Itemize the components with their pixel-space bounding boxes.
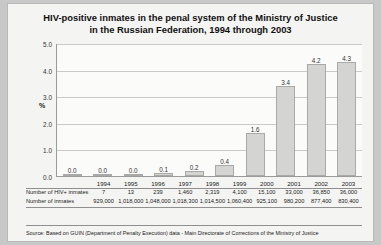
x-axis-tick-label: 1994: [90, 180, 117, 187]
x-axis-tick-label: 2001: [280, 180, 307, 187]
table-cell: 15,100: [253, 189, 280, 195]
bar[interactable]: 0.2: [185, 171, 204, 176]
table-cell: 33,000: [280, 189, 307, 195]
bar-value-label: 3.4: [281, 79, 290, 86]
source-rule: [26, 225, 362, 226]
x-axis-tick-label: 1996: [144, 180, 171, 187]
bar-cell: 4.2: [301, 44, 332, 176]
table-row: Number of inmates 929,0001,018,0001,048,…: [26, 197, 362, 206]
bar-value-label: 0.0: [129, 167, 138, 174]
bar-series: 0.00.00.00.10.20.41.63.44.24.3: [57, 44, 362, 176]
x-axis-tick-label: 1997: [172, 180, 199, 187]
plot-background: 0.00.00.00.10.20.41.63.44.24.3: [56, 44, 362, 177]
bar[interactable]: 0.0: [63, 174, 82, 176]
table-cell: 929,000: [90, 198, 117, 204]
y-axis-tick-labels: 0.01.02.03.04.05.0: [26, 44, 52, 177]
y-axis-tick-label: 4.0: [43, 67, 52, 74]
table-cell: 1,014,500: [199, 198, 226, 204]
x-axis-tick-label: 2000: [253, 180, 280, 187]
table-row-label-hiv: Number of HIV+ inmates: [26, 189, 90, 195]
chart-title-line-2: in the Russian Federation, 1994 through …: [8, 24, 373, 36]
table-rule-bottom: [26, 207, 362, 208]
bar[interactable]: 3.4: [276, 86, 295, 176]
y-axis-tick-label: 1.0: [43, 147, 52, 154]
table-row-years: 1994199519961997199819992000200120022003: [26, 178, 362, 188]
x-axis-tick-label: 2003: [335, 180, 362, 187]
bar-value-label: 4.3: [342, 55, 351, 62]
bar[interactable]: 0.1: [154, 173, 173, 176]
bar-cell: 0.0: [88, 44, 119, 176]
bar-cell: 3.4: [271, 44, 302, 176]
bar[interactable]: 0.0: [93, 174, 112, 176]
table-row-label-inmates: Number of inmates: [26, 198, 90, 204]
bar-value-label: 0.4: [220, 158, 229, 165]
bar-cell: 0.0: [57, 44, 88, 176]
x-axis-tick-label: 1998: [199, 180, 226, 187]
data-table: 1994199519961997199819992000200120022003…: [26, 178, 362, 205]
bar-cell: 1.6: [240, 44, 271, 176]
table-cell: 2,319: [199, 189, 226, 195]
bar-cell: 0.1: [149, 44, 180, 176]
hiv-row-cells: 7132391,4602,3194,10015,10033,00036,8503…: [90, 189, 362, 195]
table-cell: 36,850: [308, 189, 335, 195]
x-axis-tick-label: 2002: [308, 180, 335, 187]
table-cell: 7: [90, 189, 117, 195]
table-row: Number of HIV+ inmates 7132391,4602,3194…: [26, 188, 362, 197]
bar-value-label: 4.2: [312, 57, 321, 64]
x-axis-tick-label: 1995: [117, 180, 144, 187]
table-cell: 1,018,300: [172, 198, 199, 204]
table-cell: 925,100: [253, 198, 280, 204]
chart-title: HIV-positive inmates in the penal system…: [8, 12, 373, 36]
table-cell: 1,018,000: [117, 198, 144, 204]
bar[interactable]: 0.4: [215, 165, 234, 176]
bar-value-label: 0.0: [68, 167, 77, 174]
bar-value-label: 1.6: [251, 126, 260, 133]
bar-value-label: 0.0: [98, 167, 107, 174]
source-note: Source: Based on GUIN (Department of Pen…: [26, 230, 318, 236]
table-cell: 830,400: [335, 198, 362, 204]
table-cell: 980,200: [280, 198, 307, 204]
plot-area: 0.00.00.00.10.20.41.63.44.24.3: [56, 44, 362, 177]
table-cell: 1,048,000: [144, 198, 171, 204]
bar[interactable]: 0.0: [124, 174, 143, 176]
bar-cell: 0.4: [210, 44, 241, 176]
inmates-row-cells: 929,0001,018,0001,048,0001,018,3001,014,…: [90, 198, 362, 204]
y-axis-tick-label: 3.0: [43, 94, 52, 101]
bar-cell: 0.0: [118, 44, 149, 176]
bar-value-label: 0.1: [159, 166, 168, 173]
bar[interactable]: 1.6: [246, 133, 265, 176]
chart-card: HIV-positive inmates in the penal system…: [8, 4, 373, 241]
chart-page: HIV-positive inmates in the penal system…: [0, 0, 381, 245]
table-cell: 1,060,400: [226, 198, 253, 204]
bar[interactable]: 4.2: [307, 64, 326, 176]
table-cell: 13: [117, 189, 144, 195]
bar-cell: 4.3: [332, 44, 363, 176]
x-axis-tick-label: 1999: [226, 180, 253, 187]
table-rule-top: [26, 188, 362, 189]
table-cell: 239: [144, 189, 171, 195]
table-cell: 36,000: [335, 189, 362, 195]
bar-value-label: 0.2: [190, 164, 199, 171]
table-cell: 1,460: [172, 189, 199, 195]
bar-cell: 0.2: [179, 44, 210, 176]
table-cell: 877,400: [308, 198, 335, 204]
year-header-cells: 1994199519961997199819992000200120022003: [90, 180, 362, 187]
y-axis-tick-label: 5.0: [43, 41, 52, 48]
y-axis-tick-label: 2.0: [43, 120, 52, 127]
chart-title-line-1: HIV-positive inmates in the penal system…: [8, 12, 373, 24]
table-cell: 4,100: [226, 189, 253, 195]
bar[interactable]: 4.3: [337, 62, 356, 176]
